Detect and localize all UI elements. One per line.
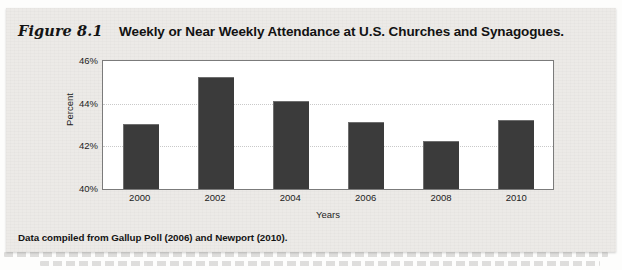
bar-slot-2004 [253,61,328,189]
bar-slot-2000 [103,61,178,189]
bar-2004[interactable] [273,101,309,189]
y-tick-label-42: 42% [79,140,98,151]
y-tick-label-40: 40% [79,183,98,194]
x-axis-tick-labels: 2000 2002 2004 2006 2008 2010 [102,192,554,203]
figure-panel: Figure 8.1 Weekly or Near Weekly Attenda… [6,8,616,252]
y-tick-label-46: 46% [79,55,98,66]
x-tick-label-2004: 2004 [253,192,328,203]
x-tick-label-2006: 2006 [328,192,403,203]
plot-area [102,60,554,190]
page-ghost-text-line [4,252,608,257]
bar-2008[interactable] [423,141,459,189]
bar-2002[interactable] [198,77,234,189]
bar-slot-2006 [328,61,403,189]
x-tick-label-2000: 2000 [102,192,177,203]
bars-container [103,61,553,189]
x-tick-label-2002: 2002 [177,192,252,203]
figure-source-note: Data compiled from Gallup Poll (2006) an… [18,232,287,243]
bar-2000[interactable] [123,124,159,189]
bar-slot-2008 [403,61,478,189]
page-ghost-text-line [40,261,600,266]
x-tick-label-2010: 2010 [479,192,554,203]
y-tick-label-44: 44% [79,97,98,108]
x-tick-label-2008: 2008 [403,192,478,203]
bar-chart: 46% 44% 42% 40% Percent 2000 2002 2004 2… [6,8,616,252]
bar-2010[interactable] [498,120,534,189]
y-axis-title: Percent [64,93,75,126]
bar-2006[interactable] [348,122,384,189]
bar-slot-2002 [178,61,253,189]
x-axis-title: Years [102,209,554,220]
bar-slot-2010 [478,61,553,189]
